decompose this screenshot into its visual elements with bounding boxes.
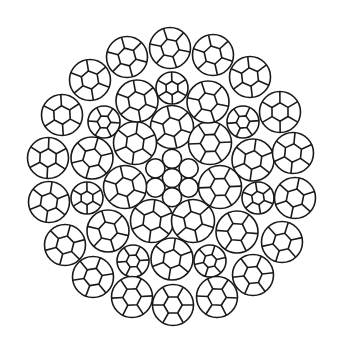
- strand-wire-divider: [246, 233, 258, 234]
- strand-wire-divider: [220, 142, 232, 143]
- outer-strand: [45, 225, 86, 266]
- outer-strand: [262, 222, 303, 263]
- outer-strand: [150, 28, 191, 69]
- outer-strand: [197, 277, 238, 318]
- strand-outline: [87, 210, 129, 252]
- middle-small-strand: [117, 245, 149, 277]
- strand-wire-divider: [111, 122, 120, 123]
- outer-strand: [42, 95, 83, 136]
- strand-wire-divider: [140, 260, 149, 261]
- strand-outline: [150, 28, 191, 69]
- core-wire: [179, 159, 198, 178]
- middle-small-strand: [242, 182, 274, 214]
- strand-wire-divider: [294, 133, 295, 144]
- outer-strand: [230, 57, 271, 98]
- outer-strand: [260, 92, 301, 133]
- middle-small-strand: [156, 72, 188, 104]
- middle-large-strand: [87, 210, 129, 252]
- strand-wire-divider: [47, 167, 48, 178]
- middle-small-strand: [194, 245, 226, 277]
- strand-outline: [275, 178, 316, 219]
- inner-strand: [172, 200, 215, 243]
- strand-outline: [116, 80, 158, 122]
- outer-strand: [29, 182, 70, 223]
- strand-outline: [114, 122, 157, 165]
- middle-small-strand: [88, 106, 120, 138]
- outer-strand: [70, 60, 111, 101]
- strand-wire-divider: [189, 143, 201, 144]
- strand-outline: [187, 81, 229, 123]
- strand-wire-divider: [291, 162, 292, 173]
- strand-outline: [233, 255, 274, 296]
- middle-large-strand: [187, 81, 229, 123]
- outer-strand: [112, 277, 153, 318]
- outer-strand: [273, 133, 314, 174]
- outer-strand: [28, 138, 69, 179]
- middle-large-strand: [232, 139, 274, 181]
- inner-strand: [114, 122, 157, 165]
- strand-wire-divider: [141, 296, 152, 297]
- rope-core: [146, 149, 198, 207]
- strand-outline: [70, 60, 111, 101]
- strand-wire-divider: [117, 261, 126, 262]
- strand-wire-divider: [197, 296, 208, 297]
- strand-outline: [117, 245, 149, 277]
- middle-large-strand: [151, 238, 193, 280]
- inner-strand: [104, 166, 147, 209]
- strand-outline: [131, 200, 174, 243]
- strand-wire-divider: [226, 297, 237, 298]
- outer-strand: [153, 285, 194, 326]
- middle-small-strand: [227, 106, 259, 138]
- strand-wire-divider: [216, 230, 228, 231]
- strand-wire-divider: [48, 138, 49, 149]
- strand-outline: [193, 35, 234, 76]
- middle-large-strand: [71, 137, 113, 179]
- outer-strand: [193, 35, 234, 76]
- strand-wire-divider: [112, 298, 123, 299]
- strand-outline: [216, 211, 258, 253]
- strand-wire-divider: [227, 123, 236, 124]
- outer-strand: [275, 178, 316, 219]
- strand-outline: [73, 257, 114, 298]
- inner-strand: [189, 122, 232, 165]
- strand-outline: [232, 139, 274, 181]
- middle-small-strand: [71, 182, 103, 214]
- inner-strand: [131, 200, 174, 243]
- strand-wire-divider: [61, 95, 62, 106]
- middle-large-strand: [116, 80, 158, 122]
- strand-wire-divider: [63, 124, 64, 135]
- strand-outline: [273, 133, 314, 174]
- strand-outline: [104, 166, 147, 209]
- strand-outline: [242, 182, 274, 214]
- strand-outline: [262, 222, 303, 263]
- wire-rope-cross-section: [0, 0, 342, 351]
- strand-wire-divider: [88, 121, 97, 122]
- strand-outline: [42, 95, 83, 136]
- middle-large-strand: [216, 211, 258, 253]
- strand-outline: [230, 57, 271, 98]
- outer-strand: [233, 255, 274, 296]
- strand-outline: [151, 238, 193, 280]
- strand-outline: [29, 182, 70, 223]
- outer-strand: [73, 257, 114, 298]
- strand-outline: [227, 106, 259, 138]
- strand-wire-divider: [250, 121, 259, 122]
- outer-strand: [107, 37, 148, 78]
- strand-outline: [172, 200, 215, 243]
- core-wire: [146, 178, 165, 197]
